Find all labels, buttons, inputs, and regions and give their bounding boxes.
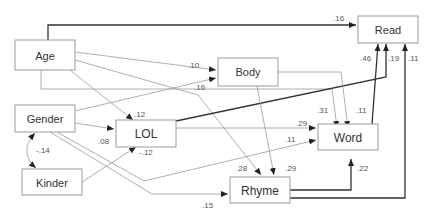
- coef-age-lol: .12: [134, 110, 146, 119]
- node-rhyme: Rhyme: [230, 177, 290, 203]
- coef-kinder-lol: -.12: [139, 148, 153, 157]
- coef-gender-kinder: -.14: [36, 146, 50, 155]
- edge-gender-word: [57, 132, 316, 181]
- edge-age-word: [41, 70, 337, 128]
- coef-age-word: .31: [317, 106, 329, 115]
- coef-gender-body: .16: [194, 83, 206, 92]
- node-gender-label: Gender: [27, 113, 64, 125]
- coef-gender-rhyme: .15: [202, 201, 214, 210]
- coef-age-read: .16: [333, 14, 345, 23]
- edge-kinder-lol: [82, 147, 136, 182]
- node-gender: Gender: [15, 105, 75, 132]
- coef-rhyme-read: .11: [408, 54, 419, 63]
- edge-body-rhyme: [257, 86, 274, 175]
- node-read-label: Read: [375, 24, 401, 36]
- coef-lol-word: .29: [296, 119, 308, 128]
- node-rhyme-label: Rhyme: [241, 184, 279, 198]
- coef-word-read: .46: [360, 54, 372, 63]
- edge-gender-lol: [75, 123, 114, 129]
- coef-gender-word: .11: [285, 135, 296, 144]
- coef-gender-lol: .08: [98, 137, 110, 146]
- coef-lol-read: .19: [388, 54, 400, 63]
- node-body-label: Body: [235, 66, 261, 78]
- node-read: Read: [358, 16, 418, 43]
- node-body: Body: [218, 58, 278, 86]
- node-age: Age: [15, 40, 75, 70]
- coef-rhyme-word: .22: [357, 164, 369, 173]
- node-kinder: Kinder: [22, 169, 82, 195]
- edge-gender-kinder: [27, 133, 36, 168]
- edge-age-read: [48, 25, 356, 40]
- node-lol-label: LOL: [135, 127, 158, 141]
- edge-lol-read: [176, 44, 386, 121]
- path-diagram: .16 .10 .12 .28 .31 .16 .08 .11 .15 -.14…: [0, 0, 428, 217]
- node-word-label: Word: [334, 131, 362, 145]
- coef-body-word: .11: [356, 106, 367, 115]
- edge-word-read: [372, 44, 378, 124]
- edge-body-word: [278, 72, 348, 128]
- coef-body-rhyme: .29: [285, 164, 297, 173]
- coef-age-rhyme: .28: [236, 164, 248, 173]
- node-kinder-label: Kinder: [36, 177, 68, 189]
- edge-age-lol: [70, 70, 133, 120]
- edge-rhyme-word: [290, 159, 351, 190]
- node-age-label: Age: [35, 50, 55, 62]
- node-word: Word: [318, 124, 378, 150]
- node-lol: LOL: [116, 120, 176, 147]
- coef-age-body: .10: [188, 61, 200, 70]
